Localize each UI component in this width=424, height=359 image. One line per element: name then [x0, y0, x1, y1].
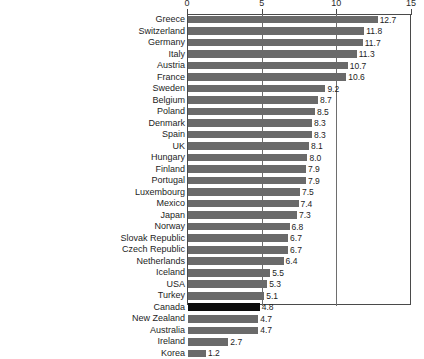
category-label-greece: Greece	[155, 14, 185, 25]
value-label-luxembourg: 7.5	[300, 187, 314, 198]
category-label-denmark: Denmark	[148, 118, 185, 129]
value-label-belgium: 8.7	[318, 95, 332, 106]
bar-row: Turkey5.1	[0, 290, 424, 302]
value-label-sweden: 9.2	[325, 84, 339, 95]
bar-slovak-republic	[188, 234, 288, 242]
bar-row: Norway6.8	[0, 221, 424, 233]
value-label-turkey: 5.1	[264, 291, 278, 302]
bar-czech-republic	[188, 246, 288, 254]
bar-austria	[188, 62, 348, 70]
category-label-czech-republic: Czech Republic	[122, 244, 185, 255]
value-label-uk: 8.1	[309, 141, 323, 152]
bar-switzerland	[188, 27, 364, 35]
value-label-greece: 12.7	[378, 15, 397, 26]
category-label-france: France	[157, 72, 185, 83]
bar-japan	[188, 211, 297, 219]
value-label-germany: 11.7	[363, 38, 381, 49]
category-label-ireland: Ireland	[157, 336, 185, 347]
bar-hungary	[188, 154, 307, 162]
bar-row: Portugal7.9	[0, 175, 424, 187]
value-label-korea: 1.2	[206, 348, 220, 359]
category-label-canada: Canada	[153, 302, 185, 313]
value-label-austria: 10.7	[348, 61, 367, 72]
value-label-australia: 4.7	[258, 325, 272, 336]
value-label-canada: 4.8	[260, 302, 274, 313]
bar-row: Germany11.7	[0, 37, 424, 49]
category-label-austria: Austria	[157, 60, 185, 71]
bar-row: Japan7.3	[0, 210, 424, 222]
bar-row: Mexico7.4	[0, 198, 424, 210]
bar-row: Italy11.3	[0, 49, 424, 61]
bar-row: Switzerland11.8	[0, 26, 424, 38]
bar-row: Australia4.7	[0, 325, 424, 337]
value-label-mexico: 7.4	[299, 199, 313, 210]
bar-row: Spain8.3	[0, 129, 424, 141]
value-label-spain: 8.3	[312, 130, 326, 141]
bar-row: UK8.1	[0, 141, 424, 153]
bar-new-zealand	[188, 315, 258, 323]
bar-belgium	[188, 96, 318, 104]
category-label-luxembourg: Luxembourg	[135, 187, 185, 198]
category-label-iceland: Iceland	[156, 267, 185, 278]
bar-row: Greece12.7	[0, 14, 424, 26]
value-label-usa: 5.3	[267, 279, 281, 290]
bar-italy	[188, 50, 357, 58]
bar-row: Korea1.2	[0, 348, 424, 359]
category-label-spain: Spain	[162, 129, 185, 140]
bar-norway	[188, 223, 290, 231]
x-tick-label-15: 15	[406, 0, 416, 8]
bar-australia	[188, 327, 258, 335]
category-label-uk: UK	[172, 141, 185, 152]
category-label-slovak-republic: Slovak Republic	[120, 233, 185, 244]
category-label-italy: Italy	[168, 49, 185, 60]
value-label-norway: 6.8	[290, 222, 304, 233]
bar-france	[188, 73, 346, 81]
bar-row: USA5.3	[0, 279, 424, 291]
bar-row: France10.6	[0, 72, 424, 84]
category-label-new-zealand: New Zealand	[132, 313, 185, 324]
value-label-portugal: 7.9	[306, 176, 320, 187]
value-label-switzerland: 11.8	[364, 26, 382, 37]
value-label-czech-republic: 6.7	[288, 245, 302, 256]
category-label-switzerland: Switzerland	[138, 26, 185, 37]
category-label-finland: Finland	[155, 164, 185, 175]
value-label-hungary: 8.0	[307, 153, 321, 164]
bar-turkey	[188, 292, 264, 300]
bar-usa	[188, 280, 267, 288]
category-label-poland: Poland	[157, 106, 185, 117]
value-label-poland: 8.5	[315, 107, 329, 118]
value-label-slovak-republic: 6.7	[288, 233, 302, 244]
bar-ireland	[188, 338, 228, 346]
bar-portugal	[188, 177, 306, 185]
bar-row: Finland7.9	[0, 164, 424, 176]
bar-greece	[188, 16, 378, 24]
category-label-portugal: Portugal	[151, 175, 185, 186]
category-label-germany: Germany	[148, 37, 185, 48]
category-label-sweden: Sweden	[152, 83, 185, 94]
value-label-iceland: 5.5	[270, 268, 284, 279]
x-tick-label-10: 10	[331, 0, 341, 8]
category-label-australia: Australia	[150, 325, 185, 336]
value-label-denmark: 8.3	[312, 118, 326, 129]
category-label-korea: Korea	[161, 348, 185, 359]
value-label-ireland: 2.7	[228, 337, 242, 348]
bar-row: Canada4.8	[0, 302, 424, 314]
bar-finland	[188, 165, 306, 173]
bar-sweden	[188, 85, 325, 93]
bar-canada	[188, 303, 260, 311]
value-label-new-zealand: 4.7	[258, 314, 272, 325]
bar-mexico	[188, 200, 299, 208]
bar-row: Austria10.7	[0, 60, 424, 72]
value-label-japan: 7.3	[297, 210, 311, 221]
bar-row: Slovak Republic6.7	[0, 233, 424, 245]
bar-denmark	[188, 119, 312, 127]
category-label-turkey: Turkey	[158, 290, 185, 301]
bar-row: Luxembourg7.5	[0, 187, 424, 199]
bar-row: Denmark8.3	[0, 118, 424, 130]
category-label-netherlands: Netherlands	[136, 256, 185, 267]
bar-germany	[188, 39, 363, 47]
value-label-finland: 7.9	[306, 164, 320, 175]
value-label-italy: 11.3	[357, 49, 375, 60]
bar-korea	[188, 350, 206, 358]
